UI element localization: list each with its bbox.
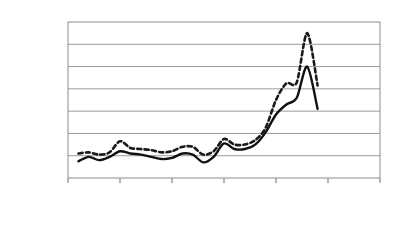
chart-background xyxy=(0,0,410,225)
oil-price-line-chart xyxy=(0,0,410,225)
